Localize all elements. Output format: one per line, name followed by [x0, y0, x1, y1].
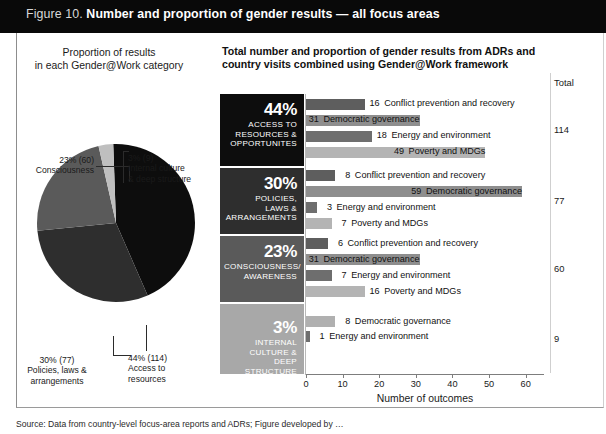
- bar-label: 18 Energy and environment: [376, 130, 491, 141]
- x-axis-tick-label: 40: [440, 379, 464, 389]
- category-name: ACCESS TO RESOURCES & OPPORTUNITES: [224, 120, 297, 149]
- x-axis-tick-label: 60: [514, 379, 538, 389]
- category-block: 3%INTERNAL CULTURE & DEEP STRUCTURE: [220, 304, 304, 374]
- bar: [306, 270, 332, 281]
- pie-label-consciousness: 23% (60) Consciousness: [8, 155, 94, 176]
- bar-series-label: Energy and environment: [325, 331, 429, 341]
- bar-label: 3 Energy and environment: [321, 202, 436, 213]
- bar-series-label: Energy and environment: [347, 270, 451, 280]
- category-block: 44%ACCESS TO RESOURCES & OPPORTUNITES: [220, 94, 304, 166]
- category-name: CONSCIOUSNESS/ AWARENESS: [224, 262, 297, 281]
- bar-value: 59: [410, 186, 421, 197]
- category-block: 23%CONSCIOUSNESS/ AWARENESS: [220, 236, 304, 302]
- category-percent: 44%: [224, 100, 297, 119]
- bar-label: 31 Democratic governance: [308, 114, 420, 125]
- bar-value: 16: [369, 98, 380, 109]
- category-block-stack: 44%ACCESS TO RESOURCES & OPPORTUNITES30%…: [220, 94, 304, 374]
- bar-label: 59 Democratic governance: [410, 186, 522, 197]
- bar-value: 8: [339, 316, 350, 327]
- bar-label: 16 Conflict prevention and recovery: [369, 98, 515, 109]
- pie-caption: Proportion of results in each Gender@Wor…: [0, 47, 218, 73]
- bars-plot-area: 16 Conflict prevention and recovery31 De…: [306, 94, 544, 374]
- category-block: 30%POLICIES, LAWS & ARRANGEMENTS: [220, 168, 304, 234]
- leader-line-consciousness: [96, 166, 130, 167]
- total-column-divider: [550, 73, 551, 373]
- figure-header-bar: Figure 10. Number and proportion of gend…: [0, 0, 606, 33]
- pie-caption-line1: Proportion of results: [0, 47, 218, 60]
- x-axis-tick: [343, 375, 344, 378]
- x-axis-tick: [306, 375, 307, 378]
- bar-series-label: Democratic governance: [319, 114, 420, 124]
- category-percent: 30%: [224, 174, 297, 193]
- bar-label: 49 Poverty and MDGs: [393, 146, 485, 157]
- bar: [306, 218, 332, 229]
- chart-title: Total number and proportion of gender re…: [222, 45, 560, 72]
- figure-number: Figure 10.: [26, 7, 83, 21]
- bar: [306, 202, 317, 213]
- bar-value: 8: [339, 170, 350, 181]
- bar-label: 7 Poverty and MDGs: [336, 218, 428, 229]
- x-axis-tick: [526, 375, 527, 378]
- total-value: 9: [554, 333, 594, 344]
- category-name: POLICIES, LAWS & ARRANGEMENTS: [224, 194, 297, 223]
- x-axis-tick: [452, 375, 453, 378]
- bar: [306, 331, 310, 342]
- bar: [306, 99, 365, 110]
- pie-caption-line2: in each Gender@Work category: [0, 60, 218, 73]
- bar-label: 1 Energy and environment: [314, 331, 429, 342]
- bar: [306, 170, 335, 181]
- bar-label: 8 Democratic governance: [339, 316, 451, 327]
- source-note: Source: Data from country-level focus-ar…: [16, 419, 576, 434]
- bar-value: 7: [336, 270, 347, 281]
- bar-series-label: Poverty and MDGs: [404, 146, 485, 156]
- bar-value: 6: [332, 238, 343, 249]
- x-axis-tick-label: 10: [331, 379, 355, 389]
- figure-header-text: Figure 10. Number and proportion of gend…: [26, 7, 440, 21]
- total-value: 114: [554, 124, 594, 135]
- y-axis-line: [305, 94, 306, 375]
- bar-label: 7 Energy and environment: [336, 270, 451, 281]
- total-value: 77: [554, 195, 594, 206]
- bar-series-label: Conflict prevention and recovery: [380, 98, 515, 108]
- bar-label: 6 Conflict prevention and recovery: [332, 238, 478, 249]
- bar-series-label: Democratic governance: [319, 254, 420, 264]
- pie-label-internal-culture: 3% (9) Internal culture & deep structure: [128, 153, 220, 184]
- leader-line-policies-v: [113, 336, 114, 355]
- bar-series-label: Conflict prevention and recovery: [343, 238, 478, 248]
- x-axis-title: Number of outcomes: [306, 393, 544, 404]
- bar: [306, 286, 365, 297]
- bar-series-label: Poverty and MDGs: [380, 286, 461, 296]
- x-axis-tick-label: 50: [477, 379, 501, 389]
- x-axis-tick-label: 20: [367, 379, 391, 389]
- bar-series-label: Energy and environment: [387, 130, 491, 140]
- pie-label-policies: 30% (77) Policies, laws & arrangements: [3, 355, 111, 386]
- leader-line-access-v: [146, 325, 147, 351]
- bar-value: 31: [308, 114, 319, 125]
- bar-series-label: Energy and environment: [332, 202, 436, 212]
- bar: [306, 238, 328, 249]
- bar-label: 8 Conflict prevention and recovery: [339, 170, 485, 181]
- bar-series-label: Democratic governance: [421, 186, 522, 196]
- bar-value: 1: [314, 331, 325, 342]
- leader-line-internal-v: [123, 151, 124, 183]
- figure-title: Number and proportion of gender results …: [86, 7, 439, 21]
- bar-series-label: Conflict prevention and recovery: [350, 170, 485, 180]
- bar-chart-panel: Total number and proportion of gender re…: [218, 33, 588, 408]
- pie-panel: Proportion of results in each Gender@Wor…: [0, 33, 218, 408]
- bar-value: 18: [376, 130, 387, 141]
- bar-label: 16 Poverty and MDGs: [369, 286, 461, 297]
- total-column-header: Total: [554, 77, 594, 88]
- leader-line-internal-h: [123, 151, 129, 152]
- bar: [306, 316, 335, 327]
- bar-series-label: Democratic governance: [350, 316, 451, 326]
- x-axis-tick: [489, 375, 490, 378]
- x-axis-tick: [379, 375, 380, 378]
- bar-value: 3: [321, 202, 332, 213]
- bar-series-label: Poverty and MDGs: [347, 218, 428, 228]
- x-axis-tick: [416, 375, 417, 378]
- bar-value: 7: [336, 218, 347, 229]
- total-value: 60: [554, 263, 594, 274]
- category-name: INTERNAL CULTURE & DEEP STRUCTURE: [224, 338, 297, 376]
- bar-value: 31: [308, 254, 319, 265]
- category-percent: 3%: [224, 318, 297, 337]
